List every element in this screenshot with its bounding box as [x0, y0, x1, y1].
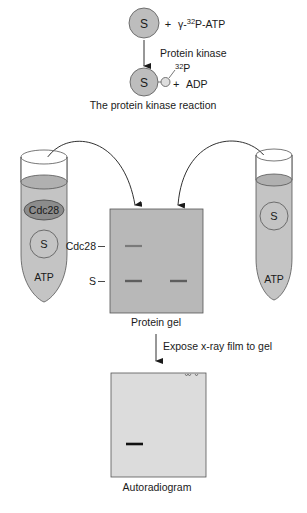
gel-caption: Protein gel — [131, 316, 181, 328]
tube-right-s-label: S — [270, 210, 277, 222]
gel-slab — [110, 209, 203, 313]
autoradiogram: Autoradiogram — [111, 373, 206, 493]
tube-left-s-label: S — [40, 238, 47, 250]
tube-right: S ATP — [256, 149, 292, 300]
kinase-assay-diagram: S + γ-32P-ATP Protein kinase S 32P + ADP… — [0, 0, 307, 513]
atp-gamma: γ-32P-ATP — [178, 17, 225, 30]
tube-left-atp-label: ATP — [34, 271, 54, 283]
tube-left: Cdc28 S ATP — [21, 150, 67, 302]
substrate-label-bottom: S — [140, 76, 148, 90]
expose-step-label: Expose x-ray film to gel — [163, 340, 272, 352]
tube-right-liquid-surface — [256, 174, 292, 186]
protein-gel: Cdc28 S Protein gel — [66, 209, 203, 328]
plus-sign-2: + — [173, 78, 179, 90]
gel-label-s: S — [89, 275, 96, 287]
phosphate-leader — [169, 70, 175, 78]
plus-sign-1: + — [165, 18, 171, 30]
tube-left-cdc28-label: Cdc28 — [29, 204, 60, 216]
reaction-scheme: S + γ-32P-ATP Protein kinase S 32P + ADP… — [90, 8, 227, 111]
reaction-caption: The protein kinase reaction — [90, 99, 217, 111]
tube-right-atp-label: ATP — [264, 273, 284, 285]
gel-label-cdc28: Cdc28 — [66, 240, 97, 252]
autoradiogram-caption: Autoradiogram — [123, 481, 192, 493]
film-sheet — [111, 373, 206, 477]
phosphate-label: 32P — [175, 62, 190, 74]
tube-left-liquid-surface — [21, 175, 67, 189]
adp-label: ADP — [186, 78, 208, 90]
phosphate-circle — [161, 78, 170, 87]
enzyme-label: Protein kinase — [160, 47, 227, 59]
substrate-label-top: S — [140, 17, 148, 31]
